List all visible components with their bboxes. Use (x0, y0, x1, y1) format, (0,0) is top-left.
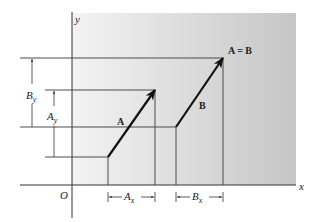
shaded-panel (72, 13, 296, 185)
vector-b-label: B (199, 100, 206, 111)
x-axis-label: x (298, 180, 304, 192)
ax-label: Ax (123, 190, 135, 205)
equality-label: A = B (228, 45, 252, 56)
y-axis-label: y (74, 13, 80, 25)
vector-diagram: y x O A B A = B By Ay Ax Bx (0, 0, 317, 222)
bx-label: Bx (192, 190, 203, 205)
origin-label: O (60, 189, 68, 201)
vector-a-label: A (117, 116, 125, 127)
